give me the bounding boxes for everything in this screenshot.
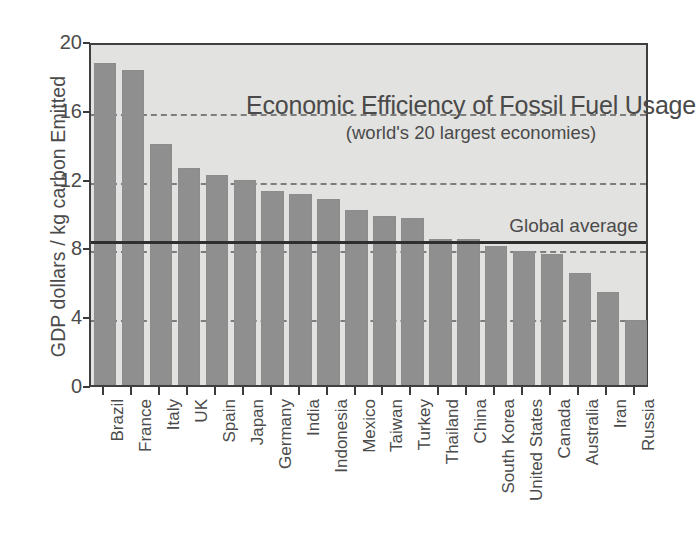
x-axis-tick-label: Brazil [109,399,126,442]
bar [150,144,172,385]
x-axis-tick-label: Italy [165,399,182,430]
x-axis-tick-label: Iran [612,399,629,428]
bar [206,175,228,385]
global-average-label: Global average [509,215,638,237]
x-axis-tick-label: Japan [249,399,266,445]
y-axis-tick-labels: 048121620 [46,0,82,541]
x-axis-tick-label: Germany [277,399,294,469]
x-axis-tick-mark [102,387,104,395]
x-axis-tick-mark [465,387,467,395]
bar [541,254,563,385]
bar [625,320,647,385]
x-axis-tick-label: UK [193,399,210,423]
x-axis-tick-mark [605,387,607,395]
x-axis-tick-label: Canada [556,399,573,459]
x-axis-tick-labels: BrazilFranceItalyUKSpainJapanGermanyIndi… [89,387,648,541]
x-axis-tick-mark [381,387,383,395]
plot-inner: Global average Economic Efficiency of Fo… [91,45,646,385]
bar [485,246,507,385]
bar [429,239,451,385]
x-axis-tick-mark [409,387,411,395]
bar [122,70,144,385]
y-axis-tick-label: 4 [46,307,82,327]
x-axis-tick-label: Russia [640,399,657,451]
bar [317,199,339,385]
bar [234,180,256,385]
x-axis-tick-mark [354,387,356,395]
x-axis-tick-label: France [137,399,154,452]
y-axis-tick-mark [83,386,90,388]
plot-area: Global average Economic Efficiency of Fo… [89,43,648,387]
x-axis-tick-mark [633,387,635,395]
global-average-line [91,241,646,244]
bar [94,63,116,385]
x-axis-tick-label: Mexico [361,399,378,453]
bar [178,168,200,385]
y-axis-tick-label: 0 [46,376,82,396]
x-axis-tick-label: Taiwan [388,399,405,452]
x-axis-tick-mark [270,387,272,395]
y-axis-tick-label: 16 [46,101,82,121]
x-axis-tick-label: Spain [221,399,238,442]
x-axis-tick-label: United States [528,399,545,501]
x-axis-tick-label: India [305,399,322,436]
y-axis-tick-mark [83,180,90,182]
x-axis-tick-mark [326,387,328,395]
x-axis-tick-label: South Korea [500,399,517,494]
bar [597,292,619,385]
y-axis-tick-mark [83,248,90,250]
y-axis-tick-mark [83,42,90,44]
bar [457,239,479,385]
x-axis-tick-mark [298,387,300,395]
bar [345,210,367,385]
x-axis-tick-mark [577,387,579,395]
x-axis-tick-mark [214,387,216,395]
x-axis-tick-label: Turkey [416,399,433,450]
y-axis-tick-label: 20 [46,32,82,52]
x-axis-tick-mark [437,387,439,395]
x-axis-tick-label: Indonesia [333,399,350,473]
y-axis-tick-mark [83,111,90,113]
bar [261,191,283,385]
x-axis-tick-mark [549,387,551,395]
x-axis-tick-mark [158,387,160,395]
x-axis-tick-label: China [472,399,489,443]
y-axis-tick-label: 12 [46,170,82,190]
x-axis-tick-mark [242,387,244,395]
x-axis-tick-label: Thailand [444,399,461,464]
x-axis-tick-label: Australia [584,399,601,465]
y-axis-tick-label: 8 [46,238,82,258]
bar [289,194,311,385]
y-axis-tick-mark [83,317,90,319]
x-axis-tick-mark [493,387,495,395]
x-axis-tick-mark [130,387,132,395]
bar [513,251,535,385]
bar [569,273,591,385]
x-axis-tick-mark [521,387,523,395]
x-axis-tick-mark [186,387,188,395]
